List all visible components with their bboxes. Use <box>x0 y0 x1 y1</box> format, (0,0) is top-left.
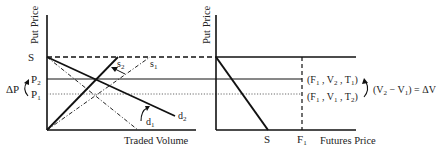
f1-tick: F1 <box>297 133 307 147</box>
delta-p-arrow-icon <box>24 79 29 96</box>
right-y-axis-title: Put Price <box>201 5 212 44</box>
left-y-axis-title: Put Price <box>29 5 40 44</box>
s2-label: s2 <box>117 58 125 71</box>
delta-v-arrow-icon <box>362 78 368 97</box>
delta-v-label: (V2 − V1) = ΔV <box>373 84 437 97</box>
left-x-axis-title: Traded Volume <box>124 135 189 146</box>
s-level-label: S <box>28 51 34 63</box>
s-strike-tick: S <box>264 133 270 145</box>
left-panel: Put Price Traded Volume s2 s1 d1 d2 <box>6 5 302 146</box>
put-price-diagram: Put Price Traded Volume s2 s1 d1 d2 <box>0 0 446 158</box>
p1-level-label: P1 <box>31 88 41 102</box>
point-f1-v2-t1: (F1 , V2 , T1) <box>307 74 358 87</box>
d2-label: d2 <box>178 110 187 123</box>
d1-label: d1 <box>146 116 155 129</box>
put-intrinsic-value-line <box>216 57 268 130</box>
supply-curve-s1 <box>47 57 150 130</box>
right-panel: Put Price Futures Price S F1 (F1 , V2 , … <box>201 5 437 147</box>
p2-level-label: P2 <box>31 73 41 87</box>
point-f1-v1-t2: (F1 , V1 , T2) <box>307 91 358 104</box>
right-x-axis-title: Futures Price <box>320 135 376 146</box>
s1-label: s1 <box>150 58 158 71</box>
delta-p-label: ΔP <box>6 83 19 95</box>
supply-curve-s2 <box>47 57 118 130</box>
